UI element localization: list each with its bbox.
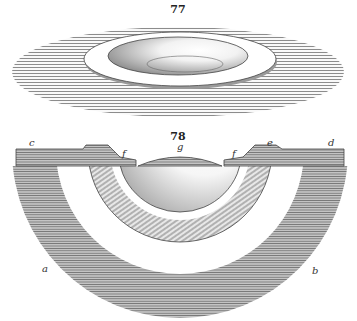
- label-b: b: [312, 265, 318, 276]
- label-c: c: [29, 137, 35, 148]
- surface-band-right: [224, 145, 344, 166]
- figure-77: 77: [12, 3, 344, 117]
- label-f-left: f: [121, 148, 128, 159]
- label-e: e: [267, 137, 273, 148]
- label-g: g: [177, 141, 183, 152]
- label-a: a: [42, 263, 48, 274]
- figure-number-77: 77: [170, 3, 185, 16]
- label-d: d: [328, 137, 334, 148]
- lens-cap: [138, 157, 222, 166]
- surface-band: [16, 145, 136, 166]
- label-f-right: f: [231, 148, 238, 159]
- engraving-canvas: 77 78 c e d f f g a b: [0, 0, 357, 321]
